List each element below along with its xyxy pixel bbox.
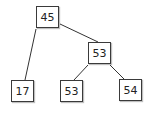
tree-node-right-child: 53 bbox=[88, 42, 111, 64]
tree-node-left-child: 17 bbox=[11, 80, 34, 102]
tree-node-right-right-leaf: 54 bbox=[119, 79, 142, 101]
tree-node-root: 45 bbox=[36, 6, 59, 28]
tree-diagram: 45 53 17 53 54 bbox=[0, 0, 159, 114]
edge-53-53 bbox=[74, 65, 88, 80]
edge-45-17 bbox=[25, 29, 36, 80]
tree-node-right-left-leaf: 53 bbox=[60, 80, 83, 102]
edge-45-53 bbox=[60, 24, 98, 42]
edge-53-54 bbox=[110, 65, 124, 79]
